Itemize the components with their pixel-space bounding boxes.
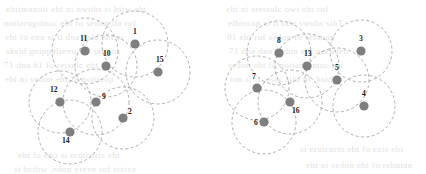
node-label-11: 11 bbox=[80, 34, 87, 43]
node-label-9: 9 bbox=[102, 92, 106, 101]
node-label-12: 12 bbox=[50, 85, 58, 94]
node-label-5: 5 bbox=[335, 63, 339, 72]
node-1 bbox=[130, 39, 139, 48]
node-label-1: 1 bbox=[133, 27, 137, 36]
node-label-4: 4 bbox=[362, 89, 366, 98]
node-6 bbox=[259, 117, 268, 126]
node-label-6: 6 bbox=[254, 118, 258, 127]
node-labels-layer: 11110151292148133571646 bbox=[50, 27, 366, 145]
node-7 bbox=[252, 83, 261, 92]
node-label-8: 8 bbox=[277, 36, 281, 45]
node-11 bbox=[80, 46, 89, 55]
node-label-7: 7 bbox=[252, 72, 256, 81]
node-8 bbox=[274, 48, 283, 57]
node-label-10: 10 bbox=[103, 49, 111, 58]
node-2 bbox=[118, 113, 127, 122]
figure-canvas: ehtimanoit eht ni nwohs si htiw ehtnoita… bbox=[0, 0, 426, 174]
node-label-16: 16 bbox=[292, 106, 300, 115]
node-label-13: 13 bbox=[304, 49, 312, 58]
node-9 bbox=[91, 97, 100, 106]
node-3 bbox=[356, 46, 365, 55]
node-label-2: 2 bbox=[128, 107, 132, 116]
node-label-3: 3 bbox=[359, 34, 363, 43]
node-10 bbox=[101, 61, 110, 70]
node-13 bbox=[302, 61, 311, 70]
node-12 bbox=[55, 97, 64, 106]
node-15 bbox=[153, 67, 162, 76]
node-label-14: 14 bbox=[62, 136, 70, 145]
node-label-15: 15 bbox=[156, 55, 164, 64]
node-4 bbox=[359, 101, 368, 110]
disk-graph-diagram: 11110151292148133571646 bbox=[0, 0, 426, 174]
node-5 bbox=[332, 75, 341, 84]
